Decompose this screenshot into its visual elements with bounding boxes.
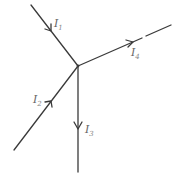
wire-i4-segment-b — [146, 25, 171, 36]
wire-i1 — [31, 5, 78, 66]
junction-node — [77, 65, 80, 68]
label-i4: I4 — [130, 46, 140, 61]
label-i3: I3 — [84, 123, 94, 138]
junction-diagram: I1 I4 I2 I3 — [0, 0, 180, 182]
label-i1: I1 — [53, 17, 63, 32]
wire-i2 — [14, 66, 78, 150]
label-i2: I2 — [32, 93, 42, 108]
